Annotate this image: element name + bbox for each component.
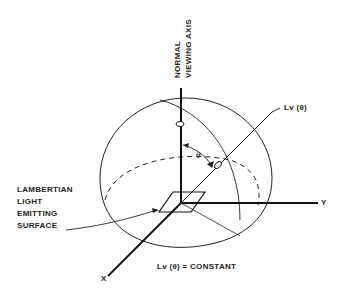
x-axis-label: X xyxy=(101,274,107,284)
surface-leader xyxy=(66,210,157,230)
theta-arrow-bottom xyxy=(207,161,214,168)
surface-leader-arrow xyxy=(152,208,159,213)
lambertian-diagram: NORMAL VIEWING AXIS Lv (θ) θ LAMBERTIAN … xyxy=(0,0,346,297)
surface-label-line4: SURFACE xyxy=(17,221,57,231)
equation-label: Lv (θ) = CONSTANT xyxy=(157,262,236,272)
surface-label-line3: EMITTING xyxy=(17,209,58,219)
surface-label-line1: LAMBERTIAN xyxy=(17,185,73,195)
lv-leader xyxy=(272,108,280,112)
luminance-label: Lv (θ) xyxy=(284,103,307,113)
normal-axis-label-line1: NORMAL xyxy=(173,41,183,78)
base-ellipse-front xyxy=(100,178,272,247)
dashed-latitude-circle xyxy=(105,156,259,205)
surface-label-line2: LIGHT xyxy=(17,197,43,207)
viewing-ray-line xyxy=(181,112,272,203)
axis-marker xyxy=(176,122,184,127)
ray-marker xyxy=(213,160,222,169)
theta-label: θ xyxy=(196,150,200,160)
theta-arrow-top xyxy=(183,143,189,148)
base-ray-line xyxy=(181,203,240,236)
normal-axis-label-line2: VIEWING AXIS xyxy=(184,19,194,78)
y-axis-label: Y xyxy=(321,198,327,208)
